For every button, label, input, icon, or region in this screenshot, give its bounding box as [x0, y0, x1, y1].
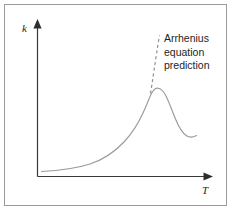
annotation-line-3: prediction [164, 59, 228, 73]
annotation-line-2: equation [164, 46, 228, 60]
x-axis-arrowhead [204, 172, 214, 180]
figure-root: k T Arrhenius equation prediction [0, 0, 232, 212]
y-axis-arrowhead [33, 19, 41, 29]
observed-rate-curve [42, 88, 197, 171]
arrhenius-annotation: Arrhenius equation prediction [164, 32, 228, 73]
y-axis-label: k [22, 22, 28, 34]
annotation-line-1: Arrhenius [164, 32, 228, 46]
arrhenius-prediction-dashed-line [151, 36, 160, 94]
x-axis-label: T [202, 184, 209, 196]
